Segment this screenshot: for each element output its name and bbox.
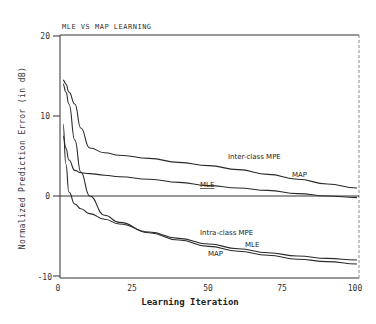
x-tick-label: 0 — [56, 284, 61, 293]
series-line-intra-class-mle — [63, 124, 357, 260]
y-axis-label: Normalized Prediction Error (in dB) — [18, 67, 27, 250]
x-tick-label: 75 — [277, 284, 287, 293]
series-line-intra-class-map — [63, 84, 357, 264]
annotation-inter-map: MAP — [292, 171, 307, 179]
annotation-intra-map: MAP — [208, 250, 223, 258]
annotation-inter-mle: MLE — [200, 181, 214, 189]
x-tick-label: 100 — [348, 284, 363, 293]
plot-frame — [60, 35, 359, 278]
x-axis-label: Learning Iteration — [141, 297, 239, 307]
y-tick-label: -10 — [38, 273, 53, 282]
y-axis: 20 10 0 -10 — [38, 32, 60, 282]
x-tick-label: 50 — [203, 284, 213, 293]
series-line-inter-class-map — [63, 80, 357, 188]
annotation-intra-mle: MLE — [245, 241, 259, 249]
x-tick-label: 25 — [127, 284, 137, 293]
annotation-inter-class: Inter-class MPE — [228, 153, 281, 161]
chart: MLE VS MAP LEARNING 20 10 0 -10 0 25 50 … — [0, 0, 376, 324]
y-tick-label: 10 — [40, 112, 50, 121]
chart-title: MLE VS MAP LEARNING — [62, 23, 152, 31]
y-tick-label: 0 — [45, 192, 50, 201]
annotation-intra-class: Intra-class MPE — [200, 229, 253, 237]
x-axis: 0 25 50 75 100 — [56, 284, 363, 293]
y-tick-label: 20 — [40, 32, 50, 41]
